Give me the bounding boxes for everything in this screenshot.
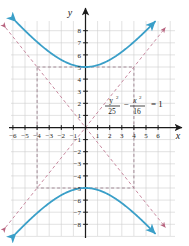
y-tick-label: 3	[78, 88, 82, 96]
y-tick-label: −1	[74, 136, 82, 144]
y-tick-label: 5	[78, 64, 82, 72]
y-tick-label: 8	[78, 27, 82, 35]
x-tick-label: 3	[120, 132, 124, 140]
y-tick-label: 1	[78, 112, 82, 120]
equation-equals-one: = 1	[151, 99, 163, 109]
equation-y-denominator: 25	[108, 107, 116, 116]
x-tick-label: −3	[45, 132, 53, 140]
y-tick-label: 6	[78, 52, 82, 60]
x-tick-label: −2	[58, 132, 66, 140]
hyperbola-figure: −6−5−4−3−2−112345687654321−1−2−3−4−5−6−7…	[0, 0, 189, 246]
y-tick-label: −3	[74, 160, 82, 168]
equation-x-numerator: x	[132, 96, 137, 105]
y-tick-label: −4	[74, 173, 82, 181]
x-tick-label: 6	[156, 132, 160, 140]
x-tick-label: 4	[132, 132, 136, 140]
equation-y-numerator: y	[109, 96, 113, 105]
y-tick-label: −8	[74, 221, 82, 229]
y-axis-label: y	[67, 7, 73, 18]
y-tick-label: −2	[74, 148, 82, 156]
y-tick-label: 2	[78, 100, 82, 108]
x-tick-label: −6	[9, 132, 17, 140]
y-tick-label: −5	[74, 185, 82, 193]
y-tick-label: −7	[74, 209, 82, 217]
y-tick-label: 7	[78, 39, 82, 47]
x-tick-label: −4	[33, 132, 41, 140]
graph-canvas: −6−5−4−3−2−112345687654321−1−2−3−4−5−6−7…	[0, 0, 189, 246]
x-tick-label: 5	[144, 132, 148, 140]
x-tick-label: −5	[21, 132, 29, 140]
x-axis-label: x	[175, 130, 181, 141]
y-tick-label: −6	[74, 197, 82, 205]
equation-minus-sign: −	[123, 99, 128, 109]
figure-background	[0, 0, 189, 246]
equation-x-denominator: 16	[133, 107, 141, 116]
y-tick-label: 4	[78, 76, 82, 84]
x-tick-label: 2	[108, 132, 112, 140]
x-tick-label: 1	[96, 132, 100, 140]
